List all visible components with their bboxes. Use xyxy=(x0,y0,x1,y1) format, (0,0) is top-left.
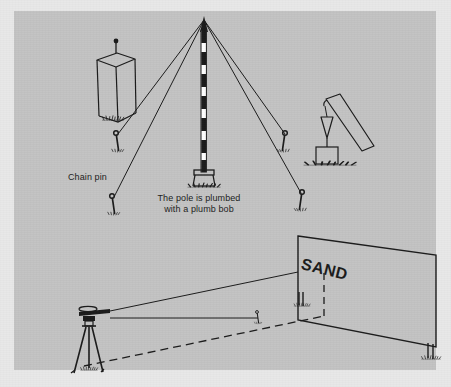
plumb-bob-on-leaning-board xyxy=(304,94,374,165)
guy-wire xyxy=(204,20,285,134)
chain-pin xyxy=(294,190,306,211)
chain-pin xyxy=(112,131,124,152)
line-of-sight xyxy=(110,272,298,311)
chain-pin xyxy=(277,131,289,152)
figure-page: Chain pin The pole is plumbed with a plu… xyxy=(0,0,451,387)
dashed-ground-line xyxy=(84,316,324,366)
chain-pin-label: Chain pin xyxy=(68,172,107,183)
plumb-caption-line-1: The pole is plumbed xyxy=(147,193,251,204)
guy-wire xyxy=(118,20,204,134)
plumb-caption-line-2: with a plumb bob xyxy=(147,204,251,215)
guy-wire xyxy=(114,20,204,197)
grass-tuft xyxy=(80,367,98,371)
concrete-monument-with-tack xyxy=(97,39,136,122)
banded-range-pole xyxy=(200,16,208,172)
bottom-scene xyxy=(71,236,441,373)
billboard-sign xyxy=(294,236,441,359)
chain-pin xyxy=(254,311,261,324)
guy-wire xyxy=(204,20,301,193)
chain-pin xyxy=(108,194,120,215)
pole-base-stand xyxy=(188,170,221,187)
top-scene xyxy=(97,16,374,215)
surveyors-level-on-tripod xyxy=(71,306,110,373)
